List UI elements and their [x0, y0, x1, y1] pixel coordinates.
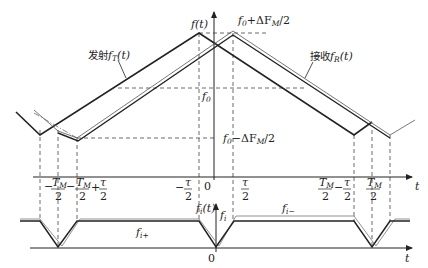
level-mid-label: f0: [201, 90, 211, 104]
beat-frequency-line: [20, 221, 410, 247]
svg-text:τ: τ: [185, 176, 192, 189]
up-beat-label: fi+: [135, 226, 149, 240]
svg-text:2: 2: [185, 190, 192, 203]
tick-tau-half: τ 2: [241, 176, 249, 203]
tick-TM-half-minus-tau-half: TM 2 − τ 2: [318, 176, 351, 203]
receive-fR-line: [34, 31, 415, 141]
transmit-fT-line: [16, 33, 372, 135]
receive-label: 接收fR(t): [310, 50, 353, 64]
svg-text:τ: τ: [100, 176, 107, 189]
fi-axis-label: fi(t): [195, 202, 216, 216]
transmit-leader: [118, 60, 126, 78]
svg-text:−: −: [175, 181, 184, 194]
fmcw-diagram: f(t) f0+ΔFM/2 发射fT(t) 接收fR(t) f0 f0−ΔFM/…: [0, 0, 428, 268]
tick-neg-TM-half-plus-tau-half: − TM 2 + τ 2: [66, 176, 107, 203]
svg-text:+: +: [91, 181, 100, 194]
svg-text:−: −: [66, 180, 75, 193]
fi-level-label: fi: [219, 209, 227, 223]
lower-origin-label: 0: [208, 252, 215, 265]
tick-TM-half: TM 2: [366, 176, 382, 203]
svg-text:TM: TM: [76, 176, 91, 190]
transmit-label: 发射fT(t): [88, 49, 130, 63]
level-top-label: f0+ΔFM/2: [237, 14, 290, 28]
upper-origin-label: 0: [204, 180, 211, 193]
svg-text:2: 2: [55, 190, 62, 203]
f-axis-label: f(t): [190, 18, 208, 31]
tick-neg-TM-half: − TM 2: [44, 176, 67, 203]
svg-text:2: 2: [79, 190, 86, 203]
down-beat-label: fi−: [281, 202, 295, 216]
tick-neg-tau-half: − τ 2: [175, 176, 192, 203]
svg-text:TM: TM: [319, 176, 334, 190]
level-bottom-label: f0−ΔFM/2: [222, 132, 275, 146]
svg-text:τ: τ: [242, 176, 249, 189]
svg-text:2: 2: [370, 190, 377, 203]
svg-text:TM: TM: [367, 176, 382, 190]
upper-t-label: t: [415, 180, 420, 193]
svg-text:τ: τ: [344, 176, 351, 189]
svg-text:2: 2: [344, 190, 351, 203]
svg-text:−: −: [334, 181, 343, 194]
receive-leader: [305, 62, 313, 78]
lower-t-label: t: [405, 252, 410, 265]
svg-text:2: 2: [322, 190, 329, 203]
svg-text:2: 2: [100, 190, 107, 203]
svg-text:2: 2: [242, 190, 249, 203]
